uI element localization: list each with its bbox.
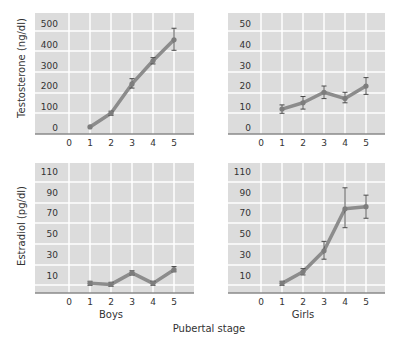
data-point	[87, 281, 92, 286]
x-tick-label: 2	[108, 138, 114, 148]
x-tick-label: 4	[342, 138, 348, 148]
x-tick-label: 0	[258, 138, 264, 148]
x-axis-label: Pubertal stage	[173, 323, 246, 334]
data-point	[150, 281, 155, 286]
y-tick-label: 300	[41, 61, 58, 71]
data-point	[300, 100, 305, 105]
x-tick-label: 3	[321, 138, 327, 148]
data-point	[363, 83, 368, 88]
x-tick-label: 0	[66, 138, 72, 148]
y-tick-label: 0	[245, 123, 251, 133]
chart-canvas: 0123450100200300400500012345010203040500…	[0, 0, 397, 340]
y-tick-label: 10	[240, 271, 252, 281]
y-tick-label: 20	[240, 81, 252, 91]
x-tick-label: 2	[300, 297, 306, 307]
x-tick-label: 5	[171, 138, 177, 148]
data-point	[300, 269, 305, 274]
y-tick-label: 500	[41, 19, 58, 29]
x-tick-label: 2	[108, 297, 114, 307]
x-tick-label: 3	[129, 297, 135, 307]
data-point	[129, 270, 134, 275]
y-tick-label: 100	[41, 102, 58, 112]
y-tick-label: 70	[47, 208, 59, 218]
x-tick-label: 4	[150, 297, 156, 307]
y-tick-label: 110	[41, 167, 58, 177]
data-point	[279, 281, 284, 286]
x-tick-label: 5	[363, 297, 369, 307]
y-axis-label-estradiol: Estradiol (pg/dl)	[16, 186, 27, 266]
data-point	[279, 107, 284, 112]
data-point	[129, 81, 134, 86]
data-point	[363, 204, 368, 209]
y-tick-label: 30	[240, 250, 252, 260]
x-tick-label: 1	[87, 138, 93, 148]
data-point	[321, 248, 326, 253]
x-tick-label: 0	[258, 297, 264, 307]
y-tick-label: 200	[41, 81, 58, 91]
y-tick-label: 30	[240, 61, 252, 71]
x-tick-label: 0	[66, 297, 72, 307]
y-tick-label: 50	[240, 229, 252, 239]
data-point	[171, 267, 176, 272]
y-tick-label: 0	[52, 123, 58, 133]
x-tick-label: 2	[300, 138, 306, 148]
hormone-chart-figure: 0123450100200300400500012345010203040500…	[0, 0, 397, 340]
column-label-girls: Girls	[292, 309, 315, 320]
panel-2: 01234501020304050	[228, 13, 385, 148]
panel-3: 0123451030507090110	[35, 163, 194, 307]
y-tick-label: 400	[41, 40, 58, 50]
y-tick-label: 70	[240, 208, 252, 218]
y-tick-label: 10	[47, 271, 59, 281]
y-tick-label: 30	[47, 250, 59, 260]
x-tick-label: 3	[321, 297, 327, 307]
y-tick-label: 90	[47, 188, 59, 198]
column-label-boys: Boys	[99, 309, 123, 320]
x-tick-label: 1	[279, 138, 285, 148]
data-point	[150, 58, 155, 63]
y-tick-label: 90	[240, 188, 252, 198]
y-tick-label: 50	[47, 229, 59, 239]
x-tick-label: 1	[279, 297, 285, 307]
y-tick-label: 10	[240, 102, 252, 112]
x-tick-label: 5	[363, 138, 369, 148]
x-tick-label: 1	[87, 297, 93, 307]
panel-1: 0123450100200300400500	[35, 13, 194, 148]
x-tick-label: 4	[342, 297, 348, 307]
data-point	[108, 282, 113, 287]
data-point	[321, 90, 326, 95]
data-point	[171, 37, 176, 42]
x-tick-label: 5	[171, 297, 177, 307]
data-point	[87, 124, 92, 129]
data-point	[342, 96, 347, 101]
y-tick-label: 40	[240, 40, 252, 50]
x-tick-label: 3	[129, 138, 135, 148]
y-tick-label: 110	[234, 167, 251, 177]
data-point	[108, 111, 113, 116]
data-point	[342, 206, 347, 211]
panel-4: 0123451030507090110	[228, 163, 385, 307]
x-tick-label: 4	[150, 138, 156, 148]
y-tick-label: 50	[240, 19, 252, 29]
y-axis-label-testosterone: Testosterone (ng/dl)	[16, 18, 27, 119]
